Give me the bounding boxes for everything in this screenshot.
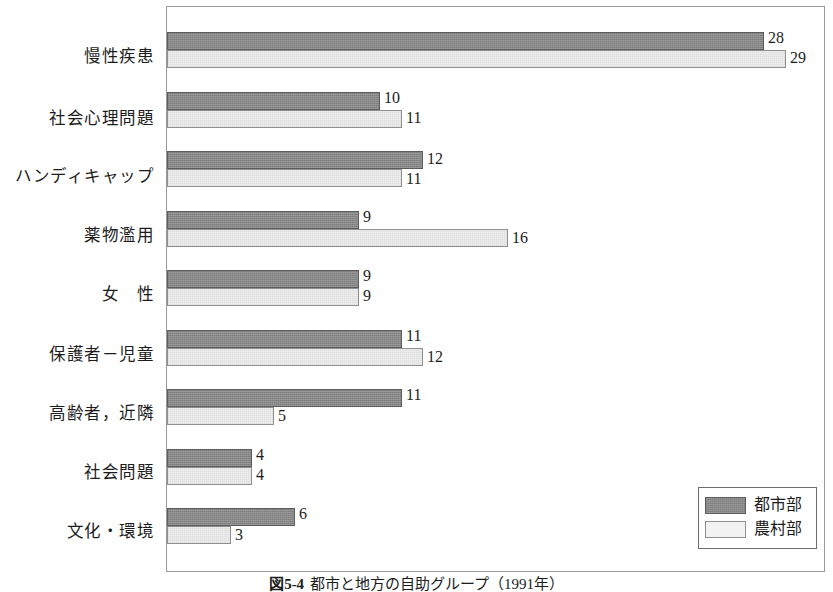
legend-swatch-urban-icon (705, 497, 746, 514)
legend: 都市部 農村部 (698, 487, 817, 549)
figure-number: 図5-4 (269, 576, 304, 592)
bar-urban (167, 32, 764, 50)
bar-value-rural: 4 (256, 466, 264, 484)
bar-urban (167, 151, 423, 169)
bar-rural (167, 50, 786, 68)
bar-rural (167, 288, 359, 306)
legend-item-urban: 都市部 (705, 493, 810, 517)
bar-urban (167, 330, 402, 348)
bar-value-urban: 9 (363, 208, 371, 226)
bar-rural (167, 110, 402, 128)
bar-urban (167, 92, 380, 110)
bar-rural (167, 526, 231, 544)
category-label: 慢性疾患 (0, 49, 154, 66)
bar-rural (167, 169, 402, 187)
bar-urban (167, 449, 252, 467)
bar-value-rural: 3 (235, 526, 243, 544)
bar-urban (167, 270, 359, 288)
bar-rural (167, 467, 252, 485)
bar-value-urban: 6 (299, 505, 307, 523)
bar-value-rural: 16 (512, 229, 528, 247)
figure-caption-text: 都市と地方の自助グループ（1991年） (310, 576, 564, 592)
bar-urban (167, 508, 295, 526)
bar-rural (167, 229, 508, 247)
legend-label-rural: 農村部 (754, 521, 802, 537)
bar-value-urban: 12 (427, 150, 443, 168)
category-label: 女 性 (0, 287, 154, 304)
bar-value-rural: 5 (278, 407, 286, 425)
category-label: 薬物濫用 (0, 228, 154, 245)
bar-rural (167, 348, 423, 366)
bar-value-urban: 11 (406, 327, 421, 345)
bar-value-rural: 12 (427, 348, 443, 366)
category-axis: 慢性疾患 社会心理問題 ハンディキャップ 薬物濫用 女 性 保護者－児童 高齢者… (0, 6, 160, 572)
bar-value-urban: 28 (768, 29, 784, 47)
bar-value-urban: 4 (256, 446, 264, 464)
bar-value-urban: 11 (406, 386, 421, 404)
category-label: 保護者－児童 (0, 347, 154, 364)
category-label: 社会問題 (0, 465, 154, 482)
figure-container: 慢性疾患 社会心理問題 ハンディキャップ 薬物濫用 女 性 保護者－児童 高齢者… (0, 0, 833, 592)
bar-value-rural: 11 (406, 109, 421, 127)
category-label: 社会心理問題 (0, 111, 154, 128)
bar-urban (167, 389, 402, 407)
legend-swatch-rural-icon (705, 521, 746, 538)
bar-value-urban: 10 (384, 89, 400, 107)
bar-value-rural: 9 (363, 287, 371, 305)
category-label: ハンディキャップ (0, 169, 154, 186)
category-label: 高齢者，近隣 (0, 406, 154, 423)
bar-rural (167, 407, 274, 425)
bar-value-rural: 11 (406, 170, 421, 188)
bar-value-urban: 9 (363, 267, 371, 285)
legend-item-rural: 農村部 (705, 517, 810, 541)
figure-caption: 図5-4 都市と地方の自助グループ（1991年） (0, 576, 833, 592)
legend-label-urban: 都市部 (754, 497, 802, 513)
category-label: 文化・環境 (0, 524, 154, 541)
bar-value-rural: 29 (790, 49, 806, 67)
bar-urban (167, 211, 359, 229)
